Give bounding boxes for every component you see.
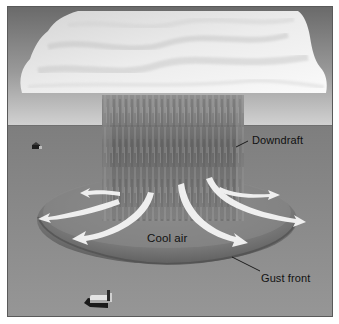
cloud: [20, 11, 326, 93]
diagram-frame: Downdraft Cool air Gust front: [7, 6, 333, 317]
rain-shaft: [102, 95, 244, 221]
gust-front-label: Gust front: [261, 273, 310, 284]
cool-air-label: Cool air: [147, 233, 187, 245]
downdraft-label: Downdraft: [252, 135, 303, 146]
thunderstorm-scene: [8, 7, 332, 316]
